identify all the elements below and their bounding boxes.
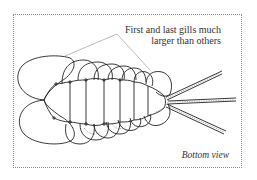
upper-gills xyxy=(62,60,172,96)
tail-cerci xyxy=(166,71,236,134)
gill-annotation: First and last gills much larger than ot… xyxy=(101,24,221,46)
annotation-line-2: larger than others xyxy=(101,35,221,46)
view-caption: Bottom view xyxy=(182,150,229,161)
body-segments xyxy=(44,79,168,126)
annotation-line-1: First and last gills much xyxy=(101,24,221,35)
